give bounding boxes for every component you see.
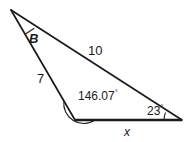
angle-apex-label: B <box>29 32 38 45</box>
angle-bottom-right-value: 23 <box>147 104 160 118</box>
angle-bottom-right-label: 23° <box>147 104 164 117</box>
triangle-figure: B 10 7 146.07° 23° x <box>0 0 189 142</box>
side-left-label: 7 <box>37 72 44 85</box>
side-upper-right-label: 10 <box>88 44 102 57</box>
angle-bottom-left-label: 146.07° <box>78 89 118 102</box>
degree-symbol-icon: ° <box>115 88 118 97</box>
degree-symbol-icon: ° <box>160 103 163 112</box>
side-base-label: x <box>124 126 130 138</box>
triangle-drawing <box>0 0 189 142</box>
side-left-line <box>11 10 75 120</box>
angle-bottom-left-value: 146.07 <box>78 89 115 103</box>
